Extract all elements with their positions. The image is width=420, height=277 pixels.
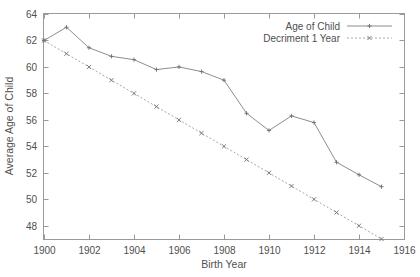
y-tick-label: 60 — [26, 62, 38, 73]
x-tick-label: 1914 — [348, 245, 371, 256]
x-tick-label: 1912 — [303, 245, 326, 256]
x-axis-title: Birth Year — [201, 258, 247, 270]
y-tick-label: 52 — [26, 168, 38, 179]
data-point-marker — [244, 157, 248, 161]
plot-frame — [44, 14, 405, 240]
x-axis-ticks — [45, 14, 405, 240]
x-tick-label: 1916 — [393, 245, 416, 256]
x-tick-label: 1906 — [168, 245, 191, 256]
data-point-marker — [132, 91, 136, 95]
data-point-marker — [312, 120, 316, 124]
data-point-marker — [199, 131, 203, 135]
data-point-marker — [64, 52, 68, 56]
y-axis-title: Average Age of Child — [3, 77, 15, 176]
data-point-marker — [177, 118, 181, 122]
y-axis-ticks — [44, 15, 405, 227]
data-series-group — [42, 25, 384, 241]
chart-container: 190019021904190619081910191219141916 485… — [0, 0, 420, 277]
x-tick-label: 1910 — [258, 245, 281, 256]
data-point-marker — [154, 105, 158, 109]
line-chart: 190019021904190619081910191219141916 485… — [0, 0, 420, 277]
data-point-marker — [199, 69, 203, 73]
legend-label-1: Decriment 1 Year — [263, 33, 340, 44]
y-axis-tick-labels: 485052545658606264 — [26, 9, 38, 232]
data-point-marker — [132, 58, 136, 62]
data-point-marker — [109, 78, 113, 82]
data-point-marker — [334, 210, 338, 214]
series-0 — [42, 25, 384, 189]
data-point-marker — [334, 160, 338, 164]
x-tick-label: 1904 — [123, 245, 146, 256]
x-tick-label: 1900 — [33, 245, 56, 256]
data-point-marker — [379, 185, 383, 189]
data-point-marker — [222, 144, 226, 148]
series-1 — [42, 38, 384, 241]
y-tick-label: 54 — [26, 141, 38, 152]
y-tick-label: 56 — [26, 115, 38, 126]
y-tick-label: 62 — [26, 35, 38, 46]
data-point-marker — [312, 197, 316, 201]
x-tick-label: 1902 — [78, 245, 101, 256]
data-point-marker — [289, 184, 293, 188]
data-point-marker — [357, 173, 361, 177]
legend-label-0: Age of Child — [286, 21, 340, 32]
y-tick-label: 50 — [26, 194, 38, 205]
x-axis-tick-labels: 190019021904190619081910191219141916 — [33, 245, 416, 256]
data-point-marker — [267, 171, 271, 175]
y-tick-label: 64 — [26, 9, 38, 20]
data-point-marker — [357, 224, 361, 228]
y-tick-label: 58 — [26, 88, 38, 99]
legend-sample-marker-0 — [367, 24, 371, 28]
data-point-marker — [109, 54, 113, 58]
data-point-marker — [177, 65, 181, 69]
y-tick-label: 48 — [26, 221, 38, 232]
data-point-marker — [154, 67, 158, 71]
chart-legend: Age of ChildDecriment 1 Year — [263, 21, 392, 44]
x-tick-label: 1908 — [213, 245, 236, 256]
data-point-marker — [87, 65, 91, 69]
